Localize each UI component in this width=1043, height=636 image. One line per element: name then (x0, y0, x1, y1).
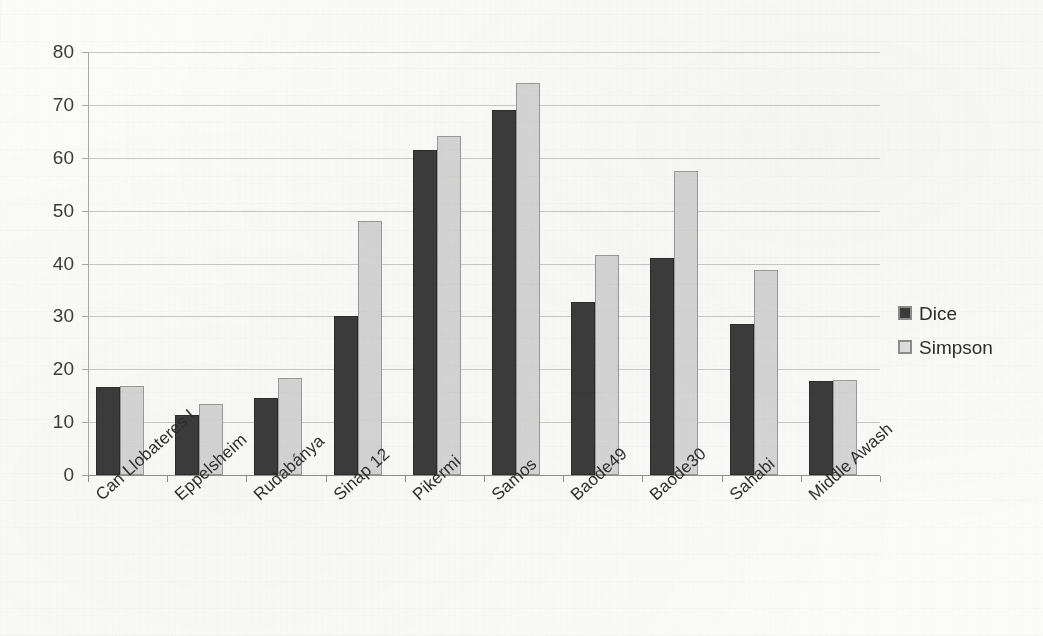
chart-legend: Dice Simpson (898, 296, 993, 364)
x-tick-5 (484, 476, 485, 482)
legend-label-simpson: Simpson (919, 338, 993, 357)
bar-dice[interactable] (96, 387, 120, 475)
bar-dice[interactable] (492, 110, 516, 475)
x-tick-6 (563, 476, 564, 482)
y-tick-label-50: 50 (26, 201, 74, 220)
bar-group (405, 52, 484, 475)
y-tick-label-30: 30 (26, 306, 74, 325)
bar-dice[interactable] (254, 398, 278, 475)
y-tick-label-60: 60 (26, 148, 74, 167)
bar-group (484, 52, 563, 475)
dice-swatch-icon (898, 306, 912, 320)
bar-simpson[interactable] (754, 270, 778, 475)
simpson-swatch-icon (898, 340, 912, 354)
x-tick-4 (405, 476, 406, 482)
y-tick-label-40: 40 (26, 254, 74, 273)
y-tick-label-20: 20 (26, 359, 74, 378)
bar-group (801, 52, 880, 475)
legend-item-dice[interactable]: Dice (898, 296, 993, 330)
bar-chart: 80706050403020100 Can Llobateres IEppels… (0, 0, 1043, 636)
x-tick-2 (246, 476, 247, 482)
x-tick-1 (167, 476, 168, 482)
bar-dice[interactable] (650, 258, 674, 475)
y-axis-line (88, 52, 89, 475)
x-tick-3 (326, 476, 327, 482)
bar-group (88, 52, 167, 475)
y-tick-label-0: 0 (26, 465, 74, 484)
x-tick-8 (722, 476, 723, 482)
bar-group (563, 52, 642, 475)
plot-area (88, 52, 880, 475)
y-tick-label-10: 10 (26, 412, 74, 431)
y-tick-label-80: 80 (26, 42, 74, 61)
bar-dice[interactable] (571, 302, 595, 475)
bar-dice[interactable] (413, 150, 437, 475)
bar-simpson[interactable] (358, 221, 382, 475)
legend-label-dice: Dice (919, 304, 957, 323)
bar-simpson[interactable] (437, 136, 461, 475)
bar-dice[interactable] (809, 381, 833, 475)
bar-simpson[interactable] (674, 171, 698, 475)
x-tick-7 (642, 476, 643, 482)
x-tick-9 (801, 476, 802, 482)
legend-item-simpson[interactable]: Simpson (898, 330, 993, 364)
bar-simpson[interactable] (516, 83, 540, 475)
y-tick-label-70: 70 (26, 95, 74, 114)
bar-dice[interactable] (334, 316, 358, 475)
bar-group (246, 52, 325, 475)
bar-dice[interactable] (730, 324, 754, 475)
x-tick-0 (88, 476, 89, 482)
x-tick-end (880, 476, 881, 482)
bar-group (326, 52, 405, 475)
bar-group (722, 52, 801, 475)
bar-group (642, 52, 721, 475)
bar-simpson[interactable] (595, 255, 619, 475)
